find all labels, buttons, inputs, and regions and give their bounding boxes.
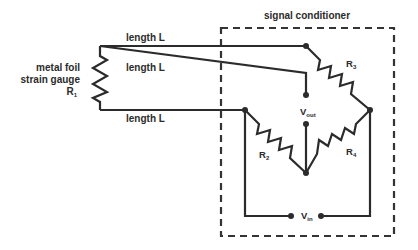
label-r4: R4 (346, 146, 357, 158)
signal-conditioner-box (221, 28, 394, 236)
vout-terminal-bottom (303, 121, 309, 127)
resistor-r2-icon (245, 110, 306, 173)
wire-label-middle: length L (126, 62, 165, 73)
node-bottom (303, 170, 309, 176)
vin-terminal-left (288, 213, 294, 219)
node-right (367, 107, 373, 113)
wire-label-top: length L (126, 32, 165, 43)
label-vout: Vout (300, 106, 316, 118)
resistor-r4-icon (306, 110, 370, 173)
vout-terminal-top (303, 92, 309, 98)
label-vin: Vin (301, 210, 313, 222)
wire-label-bottom: length L (126, 113, 165, 124)
strain-gauge-r1-icon (93, 46, 107, 110)
node-top (303, 43, 309, 49)
resistor-r3-icon (306, 46, 370, 110)
label-r2: R2 (259, 149, 270, 161)
vin-left-wire (245, 110, 291, 216)
gauge-label-line2: strain gauge (21, 74, 81, 85)
gauge-label-line1: metal foil (36, 62, 80, 73)
gauge-label-r1: R1 (66, 86, 77, 98)
vin-right-wire (321, 110, 370, 216)
label-r3: R3 (346, 58, 357, 70)
node-left (242, 107, 248, 113)
vin-terminal-right (318, 213, 324, 219)
signal-conditioner-title: signal conditioner (264, 10, 350, 21)
strain-gauge-circuit-diagram: signal conditioner length L length L len… (0, 0, 418, 250)
